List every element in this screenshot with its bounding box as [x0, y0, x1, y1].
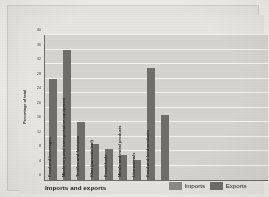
bar-category-label: Textiles and footwear — [75, 135, 79, 177]
bar-group: Machinery and transportation equipment — [63, 35, 71, 180]
bar-group: Fossil fuels — [105, 35, 113, 180]
y-tick-label: 0 — [39, 175, 41, 179]
bar-category-label: Food and food products — [145, 130, 149, 177]
scan-frame: 0481216202428323640 Percentage of total … — [7, 5, 259, 191]
y-tick-label: 28 — [37, 73, 41, 77]
chart-title: Imports and exports — [45, 185, 106, 191]
figure-mat: 0481216202428323640 Percentage of total … — [19, 15, 264, 194]
bar-series: Food and beveragesMachinery and transpor… — [45, 35, 268, 180]
legend-label-imports: Imports — [185, 183, 206, 189]
bar-group: Food and beverages — [49, 35, 57, 180]
legend-label-exports: Exports — [226, 183, 247, 189]
bar-category-label: Live animals — [131, 152, 135, 177]
y-tick-label: 12 — [37, 131, 41, 135]
legend-swatch-exports — [210, 182, 223, 190]
legend-item-exports: Exports — [210, 182, 246, 190]
bar-group: Metals and metal products — [119, 35, 127, 180]
bar-category-label: Metals and metal products — [117, 125, 121, 177]
y-tick-label: 36 — [37, 44, 41, 48]
bar — [161, 115, 169, 180]
y-tick-label: 32 — [37, 59, 41, 63]
y-tick-label: 8 — [39, 146, 41, 150]
y-tick-label: 40 — [37, 30, 41, 34]
bar-category-label: Machinery and transportation equipment — [61, 98, 65, 177]
figure: 0481216202428323640 Percentage of total … — [0, 0, 269, 197]
bar-category-label: Fossil fuels — [103, 154, 107, 177]
y-axis-label: Percentage of total — [24, 90, 28, 124]
bar-category-label: Khat (narcotic leaf) — [89, 140, 93, 177]
bar-group: Food and food products — [147, 35, 155, 180]
legend-swatch-imports — [169, 182, 182, 190]
bar-category-label: Food and beverages — [47, 137, 51, 177]
plot-area: 0481216202428323640 Percentage of total … — [44, 35, 268, 181]
bar-group — [161, 35, 169, 180]
y-tick-label: 20 — [37, 102, 41, 106]
bar-group: Live animals — [133, 35, 141, 180]
legend: Imports Exports — [169, 182, 247, 190]
y-tick-label: 16 — [37, 117, 41, 121]
y-tick-label: 4 — [39, 160, 41, 164]
bar-group: Khat (narcotic leaf) — [91, 35, 99, 180]
bar-group: Textiles and footwear — [77, 35, 85, 180]
y-tick-label: 24 — [37, 88, 41, 92]
legend-item-imports: Imports — [169, 182, 205, 190]
